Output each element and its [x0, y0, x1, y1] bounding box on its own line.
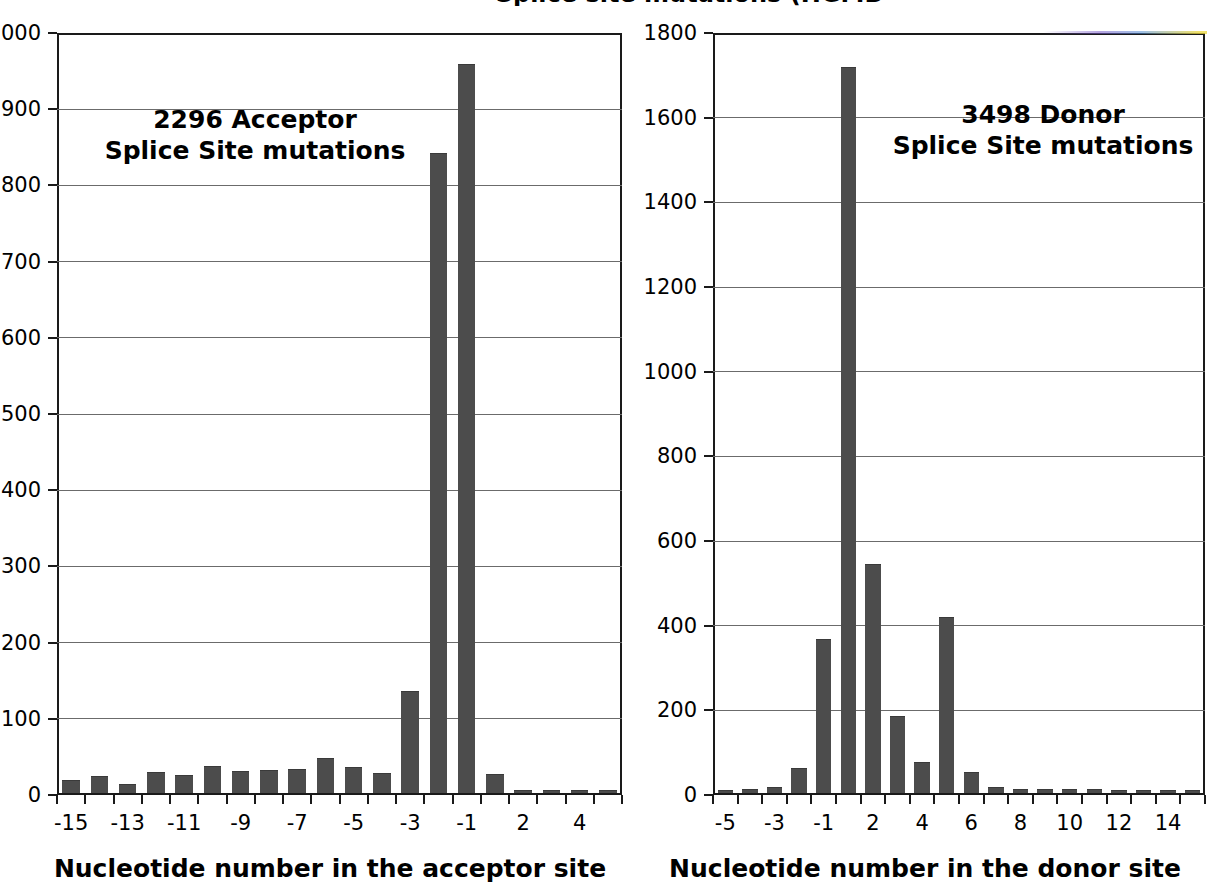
x-tick-mark [197, 795, 199, 804]
x-tick-label: 8 [1014, 811, 1027, 835]
x-tick-label: 12 [1106, 811, 1133, 835]
y-tick-label: 800 [1, 173, 41, 197]
x-tick-label: 6 [965, 811, 978, 835]
bar [742, 789, 757, 793]
x-tick-mark [958, 795, 960, 804]
y-tick-label: 1600 [644, 106, 697, 130]
bar [401, 691, 419, 793]
y-tick-label: 1800 [644, 21, 697, 45]
bar [430, 153, 448, 793]
x-tick-mark [56, 795, 58, 804]
y-tick-mark [48, 337, 57, 339]
bar [543, 790, 561, 793]
y-tick-label: 1200 [644, 275, 697, 299]
bar [964, 772, 979, 793]
bar [119, 784, 137, 793]
x-tick-mark [536, 795, 538, 804]
x-tick-mark [737, 795, 739, 804]
gridline [713, 371, 1205, 372]
bar [458, 64, 476, 793]
gridline [57, 718, 622, 719]
x-tick-label: 14 [1155, 811, 1182, 835]
bar [147, 772, 165, 793]
x-tick-mark [395, 795, 397, 804]
y-tick-mark [704, 709, 713, 711]
x-tick-mark [1204, 795, 1206, 804]
y-tick-mark [48, 184, 57, 186]
x-tick-mark [169, 795, 171, 804]
x-tick-label: -15 [54, 811, 88, 835]
gridline [57, 185, 622, 186]
x-axis-title-acceptor: Nucleotide number in the acceptor site [30, 854, 630, 883]
bar [890, 716, 905, 793]
y-tick-label: 100 [1, 707, 41, 731]
y-tick-label: 200 [1, 631, 41, 655]
bar [1037, 789, 1052, 793]
x-tick-mark [339, 795, 341, 804]
gridline [713, 625, 1205, 626]
y-tick-label: 600 [1, 326, 41, 350]
y-tick-mark [704, 201, 713, 203]
x-tick-mark [712, 795, 714, 804]
gridline [57, 261, 622, 262]
y-tick-mark [48, 565, 57, 567]
top-axis-line-acceptor [57, 33, 622, 35]
x-tick-label: -7 [287, 811, 308, 835]
gridline [713, 456, 1205, 457]
y-tick-label: 1000 [644, 360, 697, 384]
x-tick-mark [310, 795, 312, 804]
x-tick-label: -11 [167, 811, 201, 835]
y-tick-label: 200 [657, 698, 697, 722]
gridline [713, 541, 1205, 542]
bar [232, 771, 250, 793]
y-tick-mark [704, 286, 713, 288]
chart-panel-acceptor: 01002003004005006007008009001000-15-13-1… [0, 0, 640, 895]
bar [514, 790, 532, 793]
bar [288, 769, 306, 793]
gridline [57, 642, 622, 643]
y-tick-label: 800 [657, 444, 697, 468]
bar [816, 639, 831, 793]
bar [260, 770, 278, 793]
x-tick-label: -5 [343, 811, 364, 835]
x-tick-mark [480, 795, 482, 804]
bar [1160, 790, 1175, 793]
x-axis-title-donor: Nucleotide number in the donor site [640, 854, 1210, 883]
x-tick-mark [113, 795, 115, 804]
y-tick-label: 0 [684, 783, 697, 807]
x-tick-label: 4 [573, 811, 586, 835]
y-tick-mark [48, 489, 57, 491]
bar [939, 617, 954, 793]
y-tick-label: 400 [1, 478, 41, 502]
x-tick-label: 2 [866, 811, 879, 835]
x-tick-mark [835, 795, 837, 804]
gridline [57, 414, 622, 415]
bar [317, 758, 335, 793]
gridline [713, 710, 1205, 711]
y-tick-label: 1000 [0, 21, 41, 45]
figure-canvas: Splice site mutations (HGMD 2011.1) 0100… [0, 0, 1210, 895]
y-tick-label: 900 [1, 97, 41, 121]
x-tick-mark [84, 795, 86, 804]
x-tick-mark [621, 795, 623, 804]
x-tick-mark [282, 795, 284, 804]
x-tick-label: 10 [1056, 811, 1083, 835]
chart-annotation-acceptor: 2296 Acceptor Splice Site mutations [95, 105, 415, 166]
bar [345, 767, 363, 793]
bar [204, 766, 222, 793]
y-tick-mark [48, 108, 57, 110]
x-tick-mark [226, 795, 228, 804]
bar [486, 774, 504, 793]
x-tick-mark [933, 795, 935, 804]
bar [1185, 790, 1200, 793]
x-tick-label: 2 [516, 811, 529, 835]
x-tick-mark [1056, 795, 1058, 804]
gridline [57, 566, 622, 567]
y-tick-mark [704, 117, 713, 119]
bar [1136, 790, 1151, 793]
bar [62, 780, 80, 793]
x-tick-mark [452, 795, 454, 804]
x-tick-mark [761, 795, 763, 804]
gridline [713, 287, 1205, 288]
bar [988, 787, 1003, 793]
